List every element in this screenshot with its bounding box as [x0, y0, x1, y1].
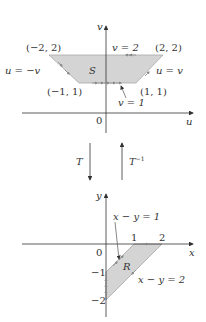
- edge-label-right: u = v: [156, 65, 183, 76]
- tick-x1: 1: [131, 232, 137, 243]
- u-axis-label: u: [186, 116, 192, 127]
- origin-label-bottom: 0: [96, 247, 102, 258]
- region-s-label: S: [89, 65, 96, 76]
- edge-label-top: v = 2: [112, 42, 139, 53]
- vertex-top-left: (−2, 2): [26, 42, 61, 53]
- uv-plane: v u 0 (−2, 2) (2, 2) (−1, 1) (1, 1) v = …: [5, 21, 193, 133]
- xy-plane: y x 0 1 2 −1 −2 x − y = 1 x − y = 2 R: [22, 190, 195, 317]
- transform-arrows: T T−1: [76, 143, 145, 180]
- edge-label-left: u = −v: [5, 65, 41, 76]
- region-r-label: R: [122, 261, 131, 272]
- vertex-bottom-right: (1, 1): [140, 86, 167, 97]
- tick-y-neg2: −2: [91, 295, 106, 306]
- origin-label-top: 0: [96, 115, 102, 126]
- edge-label-lower: x − y = 2: [138, 274, 185, 285]
- vertex-bottom-left: (−1, 1): [47, 86, 82, 97]
- t-inverse-label: T−1: [129, 155, 145, 167]
- edge-label-bottom: v = 1: [118, 97, 145, 108]
- edge-label-upper: x − y = 1: [113, 211, 160, 222]
- tick-x2: 2: [159, 232, 165, 243]
- t-label: T: [76, 156, 84, 167]
- y-axis-label: y: [95, 190, 102, 201]
- v-axis-label: v: [97, 21, 103, 32]
- vertex-top-right: (2, 2): [155, 42, 182, 53]
- x-axis-label: x: [189, 247, 195, 258]
- xy1-pointer: [115, 222, 119, 259]
- tick-y-neg1: −1: [91, 267, 106, 278]
- transformation-diagram: v u 0 (−2, 2) (2, 2) (−1, 1) (1, 1) v = …: [0, 0, 206, 322]
- t-inverse-sup: −1: [136, 155, 145, 162]
